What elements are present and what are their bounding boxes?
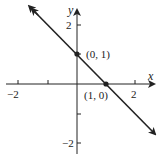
point-1-0 <box>103 81 108 86</box>
y-tick-label-neg2: −2 <box>62 137 74 149</box>
point-label-1-0: (1, 0) <box>84 89 108 102</box>
y-tick-label-2: 2 <box>66 19 72 31</box>
point-0-1 <box>74 51 79 56</box>
data-line-start-arrow <box>32 9 38 15</box>
line-graph: x y −2 2 2 −2 (0, 1) (1, 0) <box>0 0 159 157</box>
x-axis-label: x <box>147 69 154 83</box>
x-tick-label-2: 2 <box>131 88 137 100</box>
point-label-0-1: (0, 1) <box>86 48 110 61</box>
x-tick-label-neg2: −2 <box>7 88 19 100</box>
y-axis-label: y <box>67 3 74 17</box>
data-line <box>32 9 155 134</box>
